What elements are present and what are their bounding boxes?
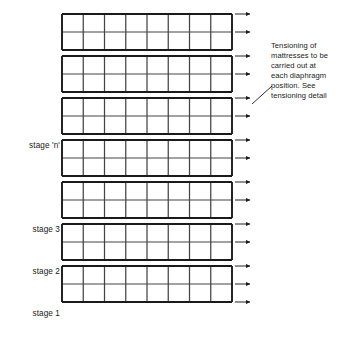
stage-panel [62,56,232,92]
tensioning-annotation-note: Tensioning of mattresses to be carried o… [271,41,355,102]
note-line-6: tensioning detail [271,91,355,101]
stage-label-1: stage 1 [0,309,60,318]
stage-panels-group [62,14,232,302]
note-line-3: carried out at [271,61,355,71]
note-line-1: Tensioning of [271,41,355,51]
stage-panel [62,14,232,50]
diagram-page: stage 'n' stage 3 stage 2 stage 1 Tensio… [0,0,356,350]
stage-panel [62,140,232,176]
annotation-leader-line [252,86,272,104]
stage-label-n: stage 'n' [0,141,60,150]
stage-panel [62,98,232,134]
stage-panel [62,182,232,218]
note-line-5: position. See [271,81,355,91]
note-line-4: each diaphragm [271,71,355,81]
stage-panel [62,266,232,302]
stage-label-3: stage 3 [0,225,60,234]
note-line-2: mattresses to be [271,51,355,61]
stage-panel [62,224,232,260]
diaphragm-arrows-group [235,14,250,302]
stage-label-2: stage 2 [0,267,60,276]
